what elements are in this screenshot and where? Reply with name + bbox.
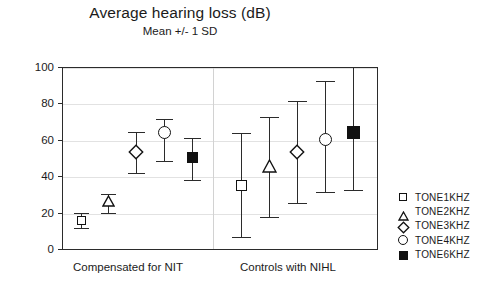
- open-square-icon: [395, 190, 415, 204]
- errorbar-cap-upper: [288, 101, 307, 102]
- gridline-40: [63, 177, 377, 178]
- errorbar-cap-lower: [288, 203, 307, 204]
- y-tick-label-40: 40: [14, 170, 54, 182]
- marker-open-triangle: [102, 195, 115, 207]
- marker-open-circle: [319, 133, 332, 146]
- legend-label: TONE4KHZ: [415, 235, 470, 246]
- open-triangle-icon: [395, 205, 415, 219]
- legend-item-tone6khz: TONE6KHZ: [395, 248, 495, 262]
- legend-label: TONE2KHZ: [415, 206, 470, 217]
- errorbar-cap-lower: [344, 190, 363, 191]
- legend-label: TONE3KHZ: [415, 220, 470, 231]
- errorbar-cap-lower: [74, 228, 89, 229]
- errorbar-cap-upper: [156, 119, 173, 120]
- errorbar-cap-upper: [344, 67, 363, 68]
- marker-open-diamond: [128, 144, 144, 160]
- filled-square-icon: [395, 248, 415, 262]
- gridline-20: [63, 214, 377, 215]
- legend: TONE1KHZ TONE2KHZ TONE3KHZ TONE4KHZ: [395, 190, 495, 262]
- open-diamond-icon: [395, 219, 415, 233]
- gridline-100: [63, 68, 377, 69]
- errorbar-cap-lower: [260, 217, 279, 218]
- group-divider: [213, 68, 214, 249]
- marker-open-diamond: [289, 144, 305, 160]
- y-tick-label-20: 20: [14, 207, 54, 219]
- errorbar-cap-upper: [260, 117, 279, 118]
- legend-label: TONE1KHZ: [415, 192, 470, 203]
- errorbar-cap-lower: [156, 161, 173, 162]
- errorbar-cap-lower: [232, 237, 251, 238]
- open-circle-icon: [395, 233, 415, 247]
- marker-filled-square: [347, 126, 360, 139]
- y-tick-label-80: 80: [14, 97, 54, 109]
- y-tick-label-60: 60: [14, 134, 54, 146]
- errorbar-cap-lower: [101, 213, 116, 214]
- errorbar-cap-upper: [128, 132, 145, 133]
- errorbar-cap-upper: [74, 213, 89, 214]
- legend-item-tone2khz: TONE2KHZ: [395, 204, 495, 218]
- legend-label: TONE6KHZ: [415, 249, 470, 260]
- errorbar-cap-lower: [184, 180, 201, 181]
- errorbar-cap-upper: [316, 81, 335, 82]
- chart-subtitle: Mean +/- 1 SD: [0, 25, 360, 37]
- gridline-80: [63, 104, 377, 105]
- y-tick-label-0: 0: [14, 243, 54, 255]
- plot-area: [62, 67, 378, 250]
- errorbar-cap-upper: [184, 138, 201, 139]
- errorbar-cap-lower: [128, 173, 145, 174]
- chart-figure: Average hearing loss (dB) Mean +/- 1 SD …: [0, 0, 497, 287]
- legend-item-tone3khz: TONE3KHZ: [395, 219, 495, 233]
- errorbar-cap-lower: [316, 192, 335, 193]
- marker-open-square: [77, 216, 86, 225]
- legend-item-tone1khz: TONE1KHZ: [395, 190, 495, 204]
- marker-open-square: [236, 180, 247, 191]
- chart-title: Average hearing loss (dB): [0, 4, 360, 22]
- marker-open-circle: [158, 126, 171, 139]
- y-tick-label-100: 100: [14, 61, 54, 73]
- marker-open-triangle: [262, 159, 277, 173]
- x-group-label-left: Compensated for NIT: [73, 261, 183, 273]
- legend-item-tone4khz: TONE4KHZ: [395, 233, 495, 247]
- errorbar-cap-upper: [232, 133, 251, 134]
- marker-filled-square: [187, 152, 198, 163]
- x-group-label-right: Controls with NIHL: [240, 261, 336, 273]
